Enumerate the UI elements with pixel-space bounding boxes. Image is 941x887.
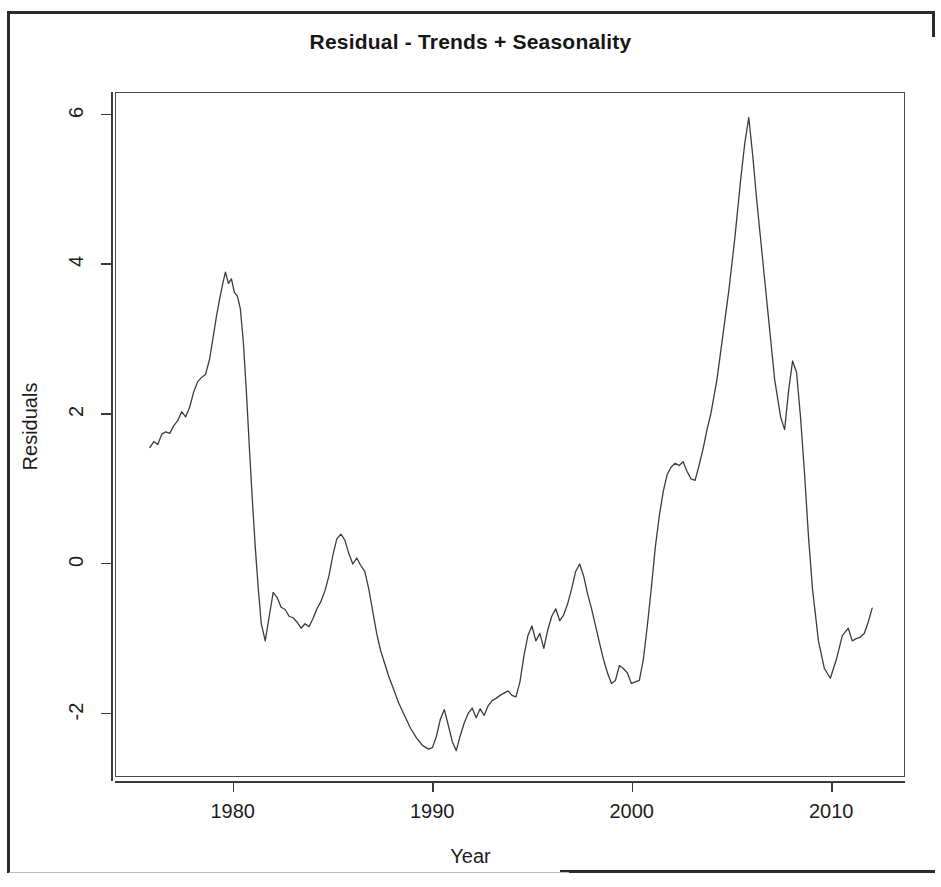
- y-tick-label-6: 6: [65, 92, 88, 132]
- y-tick-6: [101, 114, 111, 116]
- x-tick-label-1990: 1990: [387, 800, 477, 823]
- chart-page: Residual - Trends + Seasonality 19801990…: [0, 0, 941, 887]
- y-tick-4: [101, 263, 111, 265]
- y-tick-0: [101, 563, 111, 565]
- y-tick-label-0: 0: [65, 541, 88, 581]
- scanned-page-border-bottom-light: [9, 872, 569, 873]
- y-tick-2: [101, 413, 111, 415]
- chart-title: Residual - Trends + Seasonality: [0, 30, 941, 54]
- y-tick-label-4: 4: [65, 242, 88, 282]
- scanned-page-border-bottom: [560, 870, 935, 873]
- x-tick-label-2000: 2000: [587, 800, 677, 823]
- plot-area: [115, 92, 905, 777]
- residual-series-line: [116, 93, 904, 776]
- y-tick--2: [101, 713, 111, 715]
- x-tick-2000: [632, 782, 634, 792]
- y-axis-title: Residuals: [19, 367, 42, 487]
- y-tick-label-2: 2: [65, 392, 88, 432]
- x-tick-label-2010: 2010: [786, 800, 876, 823]
- x-tick-1980: [233, 782, 235, 792]
- y-tick-label--2: -2: [65, 691, 88, 731]
- y-axis-line: [111, 92, 113, 781]
- x-tick-2010: [831, 782, 833, 792]
- x-tick-label-1980: 1980: [188, 800, 278, 823]
- x-axis-title: Year: [0, 845, 941, 868]
- x-tick-1990: [432, 782, 434, 792]
